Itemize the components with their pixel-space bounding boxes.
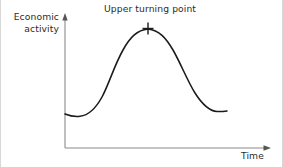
upper-turning-point-marker	[143, 23, 154, 35]
x-axis-label: Time	[241, 150, 264, 162]
y-axis-label: Economic activity	[7, 11, 59, 34]
x-axis-arrowhead	[264, 145, 272, 150]
economic-activity-curve	[65, 29, 227, 117]
y-axis-arrowhead	[62, 13, 67, 21]
economic-cycle-figure: Economic activity Time Upper turning poi…	[0, 0, 283, 167]
upper-turning-point-label: Upper turning point	[104, 3, 196, 15]
